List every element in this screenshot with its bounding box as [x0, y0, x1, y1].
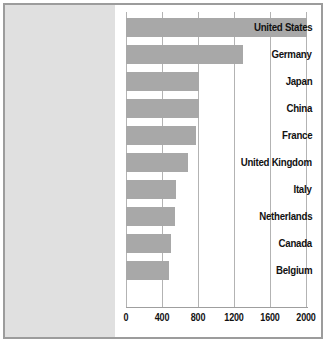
category-label-china: China	[286, 99, 312, 118]
category-label-france: France	[282, 126, 312, 145]
category-label-belgium: Belgium	[276, 261, 312, 280]
bar-united-kingdom[interactable]	[126, 153, 188, 172]
category-label-canada: Canada	[279, 234, 312, 253]
x-tick-label-1200: 1200	[224, 312, 243, 323]
bar-netherlands[interactable]	[126, 207, 175, 226]
bar-japan[interactable]	[126, 72, 199, 91]
x-tick-label-1600: 1600	[260, 312, 279, 323]
x-axis-baseline	[126, 307, 308, 308]
category-label-panel	[5, 5, 115, 337]
category-label-germany: Germany	[272, 45, 312, 64]
bar-italy[interactable]	[126, 180, 176, 199]
bar-canada[interactable]	[126, 234, 171, 253]
category-label-united-kingdom: United Kingdom	[241, 153, 312, 172]
x-tick-label-800: 800	[191, 312, 205, 323]
x-tick-label-2000: 2000	[296, 312, 315, 323]
category-label-japan: Japan	[285, 72, 312, 91]
category-label-united-states: United States	[254, 18, 312, 37]
chart-frame: 0400800120016002000 United StatesGermany…	[3, 3, 323, 339]
bar-china[interactable]	[126, 99, 199, 118]
x-tick-label-400: 400	[155, 312, 169, 323]
bar-france[interactable]	[126, 126, 196, 145]
category-label-italy: Italy	[294, 180, 312, 199]
x-tick-label-0: 0	[124, 312, 129, 323]
bar-germany[interactable]	[126, 45, 243, 64]
bar-belgium[interactable]	[126, 261, 169, 280]
category-label-netherlands: Netherlands	[259, 207, 312, 226]
bar-row	[115, 180, 321, 199]
